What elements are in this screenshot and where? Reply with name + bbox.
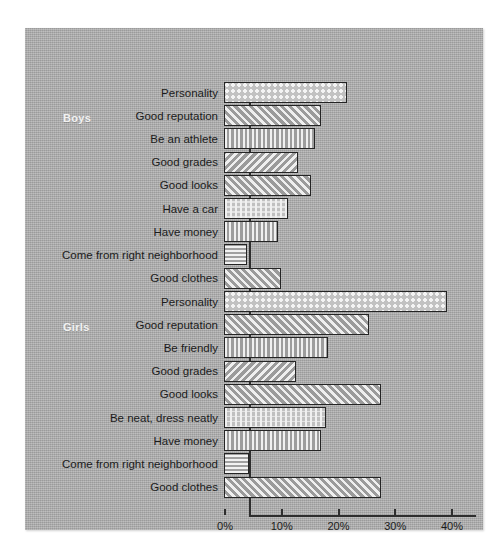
bar-category-label: Be an athlete: [150, 133, 218, 145]
x-axis-tick: [451, 509, 453, 515]
x-axis-tick: [338, 509, 340, 515]
bar-category-label: Come from right neighborhood: [62, 249, 218, 261]
bar: [224, 453, 249, 474]
bar: [224, 477, 381, 498]
x-axis-line: [249, 515, 476, 517]
bar: [224, 337, 328, 358]
bar-category-label: Be friendly: [164, 342, 218, 354]
bar: [224, 105, 321, 126]
x-axis-tick-label: 20%: [327, 520, 349, 532]
bar: [224, 152, 298, 173]
bar: [224, 221, 278, 242]
bar-category-label: Have money: [153, 226, 218, 238]
bar: [224, 314, 369, 335]
bar-category-label: Good looks: [160, 179, 218, 191]
bar-category-label: Good grades: [152, 156, 219, 168]
figure-canvas: Boys Girls PersonalityGood reputationBe …: [0, 0, 503, 549]
chart-panel: Boys Girls PersonalityGood reputationBe …: [25, 28, 483, 530]
bar: [224, 291, 447, 312]
bar-category-label: Good clothes: [150, 272, 218, 284]
bar-category-label: Personality: [161, 296, 218, 308]
bar-category-label: Good grades: [152, 365, 219, 377]
bar-category-label: Have a car: [162, 203, 218, 215]
group-label-girls: Girls: [63, 321, 90, 333]
bar-category-label: Be neat, dress neatly: [110, 412, 218, 424]
x-axis-tick: [281, 509, 283, 515]
x-axis-tick-label: 0%: [217, 520, 233, 532]
bar: [224, 361, 296, 382]
bar: [224, 175, 311, 196]
bar-category-label: Good clothes: [150, 481, 218, 493]
x-axis-tick-label: 30%: [384, 520, 406, 532]
bar: [224, 407, 326, 428]
bar: [224, 82, 347, 103]
x-axis-tick: [394, 509, 396, 515]
bar-category-label: Personality: [161, 87, 218, 99]
bar: [224, 128, 315, 149]
bar: [224, 384, 381, 405]
bar-category-label: Good looks: [160, 388, 218, 400]
bar: [224, 244, 247, 265]
bar-category-label: Good reputation: [136, 319, 218, 331]
x-axis-tick-label: 10%: [271, 520, 293, 532]
bar-category-label: Come from right neighborhood: [62, 458, 218, 470]
bar: [224, 268, 281, 289]
bar: [224, 198, 288, 219]
bar-category-label: Have money: [153, 435, 218, 447]
x-axis-tick: [224, 509, 226, 515]
bar-category-label: Good reputation: [136, 110, 218, 122]
group-label-boys: Boys: [63, 112, 91, 124]
bar: [224, 430, 321, 451]
x-axis-tick-label: 40%: [441, 520, 463, 532]
